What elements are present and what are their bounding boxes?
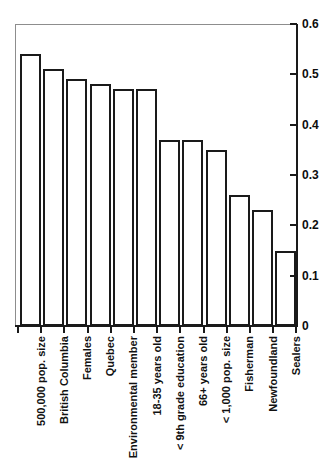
bar	[43, 69, 64, 326]
y-tick-label: 0.5	[302, 68, 319, 80]
x-tick-mark	[17, 327, 19, 333]
x-axis-label: Sealers	[291, 336, 302, 375]
x-axis-label: Newfoundland	[268, 336, 279, 412]
x-tick-mark	[87, 327, 89, 333]
y-tick-mark	[290, 73, 297, 75]
bars-layer	[15, 24, 296, 326]
x-axis-label: 500,000 pop. size	[36, 336, 47, 426]
bar	[252, 210, 273, 326]
x-tick-mark	[226, 327, 228, 333]
x-axis-label: Females	[82, 336, 93, 380]
bar	[182, 140, 203, 326]
x-axis-label: Quebec	[105, 336, 116, 376]
x-tick-mark	[63, 327, 65, 333]
bar	[229, 195, 250, 326]
x-tick-mark	[133, 327, 135, 333]
bar	[136, 89, 157, 326]
x-tick-mark	[179, 327, 181, 333]
x-axis-label: < 1,000 pop. size	[221, 336, 232, 423]
bar	[90, 84, 111, 326]
x-tick-mark	[249, 327, 251, 333]
x-tick-mark	[272, 327, 274, 333]
y-tick-mark	[290, 275, 297, 277]
x-axis-label: British Columbia	[59, 336, 70, 424]
x-axis-label: Fisherman	[244, 336, 255, 392]
bar-chart: 00.10.20.30.40.50.6 500,000 pop. sizeBri…	[0, 0, 335, 473]
x-tick-mark	[295, 327, 297, 333]
bar	[206, 150, 227, 326]
y-tick-mark	[290, 174, 297, 176]
y-tick-mark	[290, 23, 297, 25]
x-axis-label: 18-35 years old	[152, 336, 163, 416]
x-axis-label: 66+ years old	[198, 336, 209, 406]
bar	[159, 140, 180, 326]
y-tick-label: 0.6	[302, 18, 319, 30]
x-axis-label: < 9th grade education	[175, 336, 186, 450]
x-axis-label: Environmental member	[128, 336, 139, 458]
y-tick-label: 0.3	[302, 169, 319, 181]
x-tick-mark	[40, 327, 42, 333]
y-tick-mark	[290, 124, 297, 126]
x-tick-mark	[203, 327, 205, 333]
bar	[66, 79, 87, 326]
y-tick-label: 0	[302, 320, 309, 332]
x-tick-mark	[156, 327, 158, 333]
bar	[113, 89, 134, 326]
x-tick-mark	[110, 327, 112, 333]
y-tick-label: 0.4	[302, 119, 319, 131]
bar	[275, 251, 296, 327]
y-tick-label: 0.1	[302, 270, 319, 282]
y-tick-label: 0.2	[302, 219, 319, 231]
y-tick-mark	[290, 224, 297, 226]
x-axis-labels: 500,000 pop. sizeBritish ColumbiaFemales…	[0, 336, 335, 473]
bar	[20, 54, 41, 326]
